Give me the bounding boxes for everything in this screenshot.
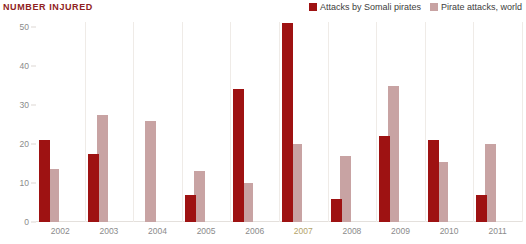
x-axis-tick-label-2007: 2007 <box>294 226 313 236</box>
bar-group-2009 <box>376 22 425 222</box>
bar-group-2010 <box>425 22 474 222</box>
chart-legend: Attacks by Somali pirates Pirate attacks… <box>309 2 522 12</box>
bar-group-2008 <box>328 22 377 222</box>
legend-item-label: Pirate attacks, world <box>441 2 522 12</box>
page-title: NUMBER INJURED <box>3 2 93 12</box>
bar-group-2005 <box>182 22 231 222</box>
x-axis-tick-label-2005: 2005 <box>197 226 216 236</box>
x-axis-ticks: 2002200320042005200620072008200920102011 <box>36 226 522 240</box>
bar-group-2006 <box>230 22 279 222</box>
y-axis-tick-label: 40 <box>20 61 29 71</box>
legend-swatch-icon <box>430 3 438 11</box>
legend-swatch-icon <box>309 3 317 11</box>
bar-group-2003 <box>85 22 134 222</box>
bar-group-2002 <box>36 22 85 222</box>
legend-item-label: Attacks by Somali pirates <box>320 2 421 12</box>
bar-somali-pirate-attacks-2008[interactable] <box>331 199 342 222</box>
bar-world-pirate-attacks-2004[interactable] <box>145 121 156 222</box>
x-axis-tick-label-2006: 2006 <box>245 226 264 236</box>
bar-somali-pirate-attacks-2006[interactable] <box>233 89 244 222</box>
x-axis-tick-label-2004: 2004 <box>148 226 167 236</box>
bar-group-2004 <box>133 22 182 222</box>
x-axis-tick-label-2008: 2008 <box>342 226 361 236</box>
x-axis-tick-label-2010: 2010 <box>440 226 459 236</box>
bar-somali-pirate-attacks-2002[interactable] <box>39 140 50 222</box>
x-axis-tick-label-2011: 2011 <box>489 226 507 236</box>
bar-somali-pirate-attacks-2007[interactable] <box>282 23 293 222</box>
y-axis-tick-label: 20 <box>20 139 29 149</box>
legend-item-somali-pirates: Attacks by Somali pirates <box>309 2 421 12</box>
bar-somali-pirate-attacks-2011[interactable] <box>476 195 487 222</box>
chart-container: NUMBER INJURED Attacks by Somali pirates… <box>0 0 526 244</box>
group-separator <box>522 22 523 222</box>
x-axis-tick-label-2009: 2009 <box>391 226 410 236</box>
bar-somali-pirate-attacks-2005[interactable] <box>185 195 196 222</box>
y-axis-tick-label: 50 <box>20 22 29 32</box>
bar-group-2011 <box>473 22 522 222</box>
plot-area: 01020304050 <box>36 22 522 222</box>
bar-somali-pirate-attacks-2003[interactable] <box>88 154 99 222</box>
legend-item-world-pirate-attacks: Pirate attacks, world <box>430 2 522 12</box>
y-axis-tick-label: 30 <box>20 100 29 110</box>
bar-somali-pirate-attacks-2009[interactable] <box>379 136 390 222</box>
y-axis-tick-label: 0 <box>24 217 29 227</box>
bar-somali-pirate-attacks-2010[interactable] <box>428 140 439 222</box>
x-axis-tick-label-2003: 2003 <box>99 226 118 236</box>
y-axis-tick-label: 10 <box>20 178 29 188</box>
x-axis-tick-label-2002: 2002 <box>51 226 70 236</box>
bar-group-2007 <box>279 22 328 222</box>
